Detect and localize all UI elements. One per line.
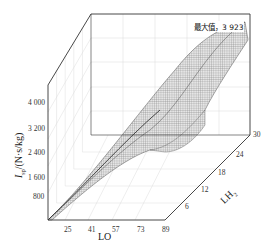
z-axis-label: Isp/(N·s/kg) [13,133,26,178]
z-tick-3200: 3 200 [28,124,45,133]
z-tick-1600: 1 600 [28,173,45,182]
x-tick-89: 89 [162,225,170,234]
max-value-annotation: 最大值，3 923 [193,21,244,32]
x-tick-57: 57 [112,225,120,234]
z-tick-2400: 2 400 [28,148,45,157]
x-tick-41: 41 [88,225,96,234]
z-tick-800: 800 [33,192,44,201]
y-tick-24: 24 [236,150,244,159]
left-wall-grid [48,28,91,203]
surface-mesh [48,22,248,220]
y-tick-12: 12 [201,185,209,194]
y-tick-30: 30 [253,130,261,139]
x-tick-25: 25 [64,225,72,234]
z-label-unit: /(N·s/kg) [13,133,24,170]
z-label-sub: sp [20,169,26,174]
z-tick-4000: 4 000 [28,98,45,107]
x-tick-73: 73 [137,225,145,234]
y-tick-6: 6 [185,202,189,211]
y-tick-18: 18 [218,168,226,177]
z-label-symbol: I [13,175,24,178]
x-axis-label: LO [98,231,111,242]
